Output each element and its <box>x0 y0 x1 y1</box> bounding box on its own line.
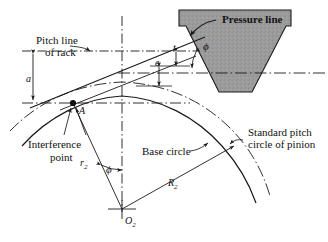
label-dim-e: e <box>155 57 160 68</box>
diagram-page: Pitch line of rack Pressure line Interfe… <box>0 0 328 242</box>
label-dim-a: a <box>26 73 31 84</box>
label-pressure-line: Pressure line <box>222 13 283 25</box>
phi-angle-arc-top <box>192 52 196 68</box>
label-dim-t: t <box>173 42 176 53</box>
interference-point-marker <box>70 100 76 106</box>
label-pitch-line-rack-2: of rack <box>45 46 76 58</box>
dimension-e <box>136 67 172 86</box>
gear-interference-diagram: Pitch line of rack Pressure line Interfe… <box>0 0 328 242</box>
label-phi-top: ϕ <box>203 40 209 52</box>
label-pitch-line-rack-1: Pitch line <box>36 34 78 46</box>
label-interference-point-2: point <box>50 151 73 163</box>
label-base-circle: Base circle <box>142 145 191 157</box>
label-R2: R2 <box>167 177 178 191</box>
leader-base-circle <box>190 143 208 151</box>
label-phi-bottom: ϕ <box>106 163 112 175</box>
label-point-a: A <box>78 105 86 116</box>
label-O2: O2 <box>125 215 136 229</box>
label-interference-point-1: Interference <box>28 138 81 150</box>
label-standard-pitch-1: Standard pitch <box>248 126 312 138</box>
label-r2: r2 <box>80 157 88 171</box>
label-standard-pitch-2: circle of pinion <box>248 138 316 150</box>
